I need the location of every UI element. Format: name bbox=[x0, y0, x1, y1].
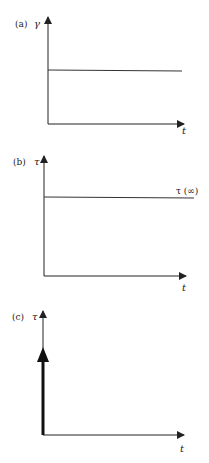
panel-c-impulse-arrowhead-icon bbox=[37, 347, 49, 362]
panel-c-x-symbol: t bbox=[180, 443, 185, 454]
panel-b-constant-line bbox=[44, 197, 194, 198]
panel-b-y-symbol: τ bbox=[34, 156, 40, 167]
panel-a-constant-line bbox=[48, 70, 182, 71]
panel-c: (c) τ t bbox=[12, 311, 185, 454]
panel-a-x-symbol: t bbox=[182, 125, 187, 136]
panel-a-y-symbol: γ bbox=[34, 18, 40, 29]
panel-c-y-symbol: τ bbox=[32, 311, 38, 322]
panel-b-label: (b) bbox=[13, 157, 26, 167]
panel-b-x-symbol: t bbox=[182, 282, 187, 293]
panel-c-label: (c) bbox=[12, 312, 24, 322]
panel-b-curve-label: τ (∞) bbox=[176, 186, 198, 196]
panel-b: (b) τ τ (∞) t bbox=[13, 156, 198, 293]
panel-a-label: (a) bbox=[15, 19, 27, 29]
figure: (a) γ t (b) τ τ (∞) t (c) τ t bbox=[0, 0, 209, 463]
panel-a: (a) γ t bbox=[15, 17, 187, 136]
